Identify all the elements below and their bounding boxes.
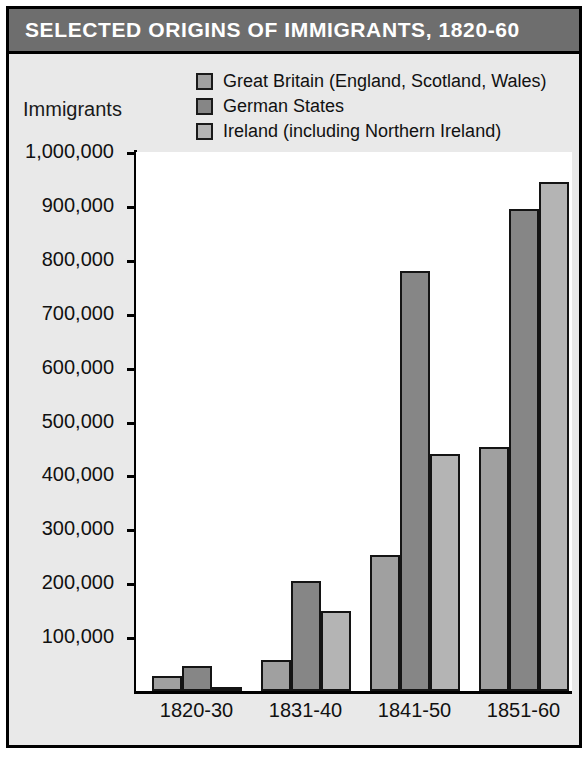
chart-page: SELECTED ORIGINS OF IMMIGRANTS, 1820-60 … — [0, 0, 588, 758]
bar-2-2 — [430, 454, 460, 691]
bar-1-1 — [291, 581, 321, 691]
y-axis-tick-label: 600,000 — [42, 356, 114, 379]
bar-0-3 — [479, 447, 509, 691]
y-axis-tick-label: 1,000,000 — [25, 140, 114, 163]
y-axis-tick: 1,000,000 — [127, 152, 136, 155]
y-axis-tick-label: 800,000 — [42, 248, 114, 271]
bar-2-0 — [212, 687, 242, 691]
y-axis-tick: 300,000 — [127, 529, 136, 532]
bar-0-2 — [370, 555, 400, 691]
plot-wrapper: 100,000200,000300,000400,000500,000600,0… — [9, 54, 579, 745]
y-axis-tick: 900,000 — [127, 206, 136, 209]
chart-title: SELECTED ORIGINS OF IMMIGRANTS, 1820-60 — [9, 18, 520, 42]
y-axis-tick: 500,000 — [127, 422, 136, 425]
x-axis-category-label: 1851-60 — [487, 699, 560, 722]
y-axis-tick-label: 900,000 — [42, 194, 114, 217]
y-axis-tick: 700,000 — [127, 314, 136, 317]
x-axis-category-label: 1831-40 — [269, 699, 342, 722]
y-axis-tick: 100,000 — [127, 637, 136, 640]
plot-area: 100,000200,000300,000400,000500,000600,0… — [136, 152, 572, 691]
y-axis-tick: 600,000 — [127, 368, 136, 371]
bar-1-3 — [509, 209, 539, 691]
chart-body: Immigrants Great Britain (England, Scotl… — [9, 54, 579, 745]
bar-0-0 — [152, 676, 182, 691]
bar-1-2 — [400, 271, 430, 691]
x-axis-category-label: 1841-50 — [378, 699, 451, 722]
y-axis-tick-label: 100,000 — [42, 625, 114, 648]
bar-1-0 — [182, 666, 212, 691]
y-axis-tick-label: 300,000 — [42, 518, 114, 541]
bar-2-3 — [539, 182, 569, 691]
y-axis-tick-label: 200,000 — [42, 571, 114, 594]
chart-title-bar: SELECTED ORIGINS OF IMMIGRANTS, 1820-60 — [9, 9, 579, 54]
bar-0-1 — [261, 660, 291, 691]
y-axis-tick: 200,000 — [127, 583, 136, 586]
y-axis-tick: 400,000 — [127, 475, 136, 478]
y-axis-tick: 800,000 — [127, 260, 136, 263]
y-axis-tick-label: 400,000 — [42, 464, 114, 487]
bar-2-1 — [321, 611, 351, 691]
y-axis-tick-label: 500,000 — [42, 410, 114, 433]
y-axis-tick-label: 700,000 — [42, 302, 114, 325]
x-axis-category-label: 1820-30 — [160, 699, 233, 722]
